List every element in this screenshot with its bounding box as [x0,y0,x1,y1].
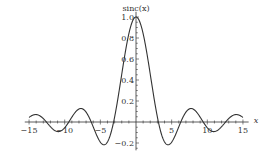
sinc-chart: −15−10−551015 x −0.20.20.40.60.81.0 sinc… [0,0,268,163]
x-axis-title: x [254,116,259,125]
y-axis-title: sinc(x) [122,4,149,13]
x-tick-label: −15 [21,126,38,135]
y-axis: −0.20.20.40.60.81.0 sinc(x) [115,4,150,151]
y-tick-label: 0.2 [121,97,134,106]
y-tick-label: 1.0 [121,13,134,22]
y-tick-label: −0.2 [115,139,134,148]
x-tick-label: 5 [169,126,174,135]
y-tick-label: 0.4 [121,76,134,85]
y-axis-ticks: −0.20.20.40.60.81.0 [115,13,139,148]
x-tick-label: 15 [238,126,248,135]
